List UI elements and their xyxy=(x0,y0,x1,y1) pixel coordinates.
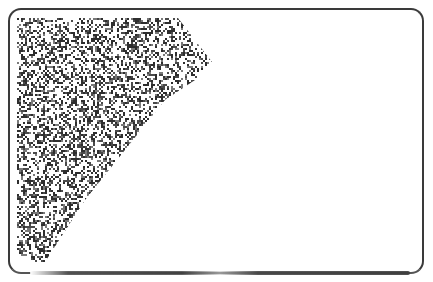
dither-texture-region xyxy=(0,0,433,282)
